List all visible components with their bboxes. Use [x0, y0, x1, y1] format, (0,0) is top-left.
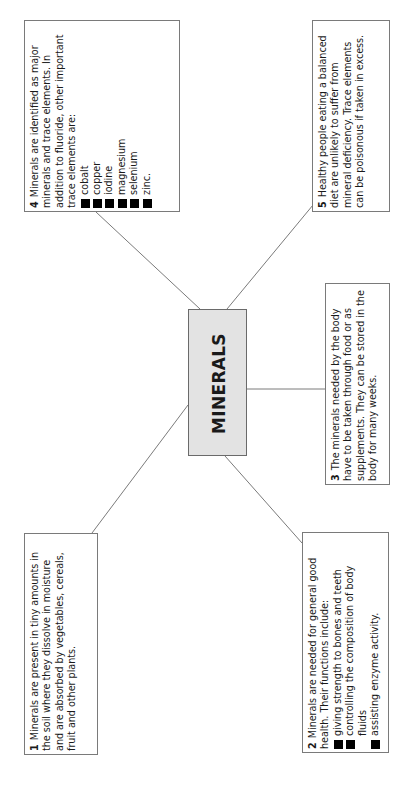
list-item: iodine: [103, 26, 115, 208]
connector-box4: [96, 212, 200, 309]
list-item: cobalt: [79, 26, 91, 208]
list-item: zinc.: [141, 26, 153, 208]
box-text: Minerals are identified as major mineral…: [29, 34, 77, 208]
box-number: 5: [317, 201, 328, 208]
box-number: 3: [330, 474, 341, 481]
box-text: Healthy people eating a balanced diet ar…: [317, 35, 365, 208]
info-box-5: 5Healthy people eating a balanced diet a…: [312, 20, 390, 212]
functions-list: giving strength to bones and teeth contr…: [332, 538, 382, 749]
info-box-4: 4Minerals are identified as major minera…: [24, 20, 180, 212]
box-text: Minerals are needed for general good hea…: [307, 558, 330, 749]
box-number: 4: [29, 201, 40, 208]
list-item: giving strength to bones and teeth: [332, 538, 344, 749]
trace-elements-list: cobalt copper iodine magnesium selenium …: [79, 26, 153, 208]
box-number: 1: [29, 744, 40, 751]
info-box-2: 2Minerals are needed for general good he…: [302, 532, 389, 753]
list-item: selenium: [128, 26, 140, 208]
info-box-3: 3The minerals needed by the body have to…: [325, 283, 390, 485]
list-item: controlling the composition of body flui…: [344, 538, 369, 749]
central-topic-label: MINERALS: [189, 310, 248, 457]
central-topic-box: MINERALS: [188, 309, 247, 456]
box-text: The minerals needed by the body have to …: [330, 290, 378, 481]
list-item: copper: [91, 26, 103, 208]
connector-box2: [225, 456, 302, 543]
info-box-1: 1Minerals are present in tiny amounts in…: [24, 533, 98, 755]
box-text: Minerals are present in tiny amounts in …: [29, 552, 77, 751]
connector-box5: [227, 205, 313, 309]
connector-box1: [92, 405, 188, 533]
list-item: magnesium: [116, 26, 128, 208]
list-item: assisting enzyme activity.: [369, 538, 381, 749]
box-number: 2: [307, 742, 318, 749]
